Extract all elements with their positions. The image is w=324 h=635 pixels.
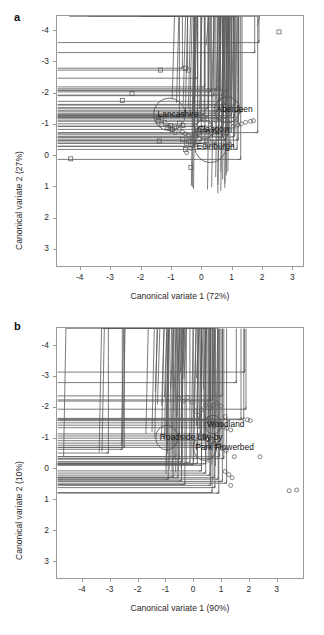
panel-y-tick-label: -2 (29, 87, 49, 97)
panel-x-tick-label: -1 (161, 272, 181, 282)
panel-x-tick-label: 2 (239, 584, 259, 594)
panel-b: b Canonical variate 2 (10%) Canonical va… (0, 312, 324, 635)
panel-x-tick (165, 578, 166, 582)
panel-y-tick-label: 3 (29, 243, 49, 253)
panel-y-tick (53, 249, 57, 250)
panel-y-tick-label: -2 (29, 401, 49, 411)
panel-y-tick (53, 499, 57, 500)
panel-b-scatter-area (57, 328, 303, 578)
panel-x-tick (138, 578, 139, 582)
panel-y-tick (53, 30, 57, 31)
panel-x-tick-label: -3 (100, 272, 120, 282)
panel-a-y-axis-title: Canonical variate 2 (27%) (14, 151, 24, 250)
panel-y-tick-label: -3 (29, 56, 49, 66)
panel-x-tick (171, 266, 172, 270)
panel-y-tick (53, 93, 57, 94)
panel-y-tick-label: 2 (29, 212, 49, 222)
panel-x-tick-label: 3 (282, 272, 302, 282)
group-label: Lancashire (158, 109, 199, 119)
panel-b-y-axis-title: Canonical variate 2 (10%) (14, 461, 24, 560)
panel-a-letter: a (14, 11, 20, 23)
panel-y-tick (53, 186, 57, 187)
panel-x-tick (193, 578, 194, 582)
panel-y-tick (53, 438, 57, 439)
panel-x-tick (80, 266, 81, 270)
panel-x-tick-label: 1 (211, 584, 231, 594)
group-label: Glasgow (197, 124, 230, 134)
panel-x-tick (292, 266, 293, 270)
panel-y-tick (53, 124, 57, 125)
panel-x-tick-label: 2 (252, 272, 272, 282)
panel-x-tick (141, 266, 142, 270)
panel-y-tick (53, 530, 57, 531)
panel-a: a Canonical variate 2 (27%) Canonical va… (0, 0, 324, 312)
panel-y-tick-label: 1 (29, 494, 49, 504)
panel-x-tick-label: 1 (222, 272, 242, 282)
panel-y-tick (53, 376, 57, 377)
panel-x-tick (110, 266, 111, 270)
panel-x-tick-label: 0 (183, 584, 203, 594)
panel-x-tick (232, 266, 233, 270)
panel-x-tick (110, 578, 111, 582)
group-label: Woodland (207, 419, 245, 429)
panel-b-letter: b (14, 320, 21, 332)
panel-x-tick-label: -2 (128, 584, 148, 594)
panel-y-tick (53, 61, 57, 62)
panel-y-tick (53, 561, 57, 562)
panel-y-tick-label: -4 (29, 340, 49, 350)
panel-y-tick (53, 407, 57, 408)
panel-y-tick-label: -1 (29, 432, 49, 442)
panel-x-tick-label: 3 (267, 584, 287, 594)
panel-y-tick-label: 0 (29, 150, 49, 160)
panel-y-tick-label: 0 (29, 463, 49, 473)
panel-y-tick-label: 2 (29, 525, 49, 535)
group-label: Roadside Lay-by (160, 432, 223, 442)
panel-x-tick-label: -4 (70, 272, 90, 282)
panel-x-tick-label: -4 (72, 584, 92, 594)
panel-y-tick-label: 1 (29, 181, 49, 191)
group-label: Edinburgh (197, 141, 235, 151)
panel-b-x-axis-title: Canonical variate 1 (90%) (56, 603, 304, 613)
panel-y-tick (53, 155, 57, 156)
panel-x-tick (249, 578, 250, 582)
panel-x-tick (262, 266, 263, 270)
panel-x-tick-label: -2 (131, 272, 151, 282)
panel-y-tick-label: -1 (29, 118, 49, 128)
panel-y-tick-label: -3 (29, 370, 49, 380)
panel-y-tick-label: 3 (29, 556, 49, 566)
panel-a-scatter-area (57, 16, 303, 266)
panel-y-tick (53, 218, 57, 219)
panel-x-tick (277, 578, 278, 582)
panel-x-tick (82, 578, 83, 582)
panel-x-tick-label: 0 (191, 272, 211, 282)
panel-y-tick (53, 468, 57, 469)
panel-y-tick-label: -4 (29, 25, 49, 35)
panel-x-tick-label: -3 (100, 584, 120, 594)
group-label: Park Flowerbed (195, 442, 254, 452)
panel-y-tick (53, 345, 57, 346)
group-label: Aberdeen (216, 104, 252, 114)
panel-x-tick (221, 578, 222, 582)
panel-x-tick (201, 266, 202, 270)
panel-a-x-axis-title: Canonical variate 1 (72%) (56, 291, 304, 301)
panel-x-tick-label: -1 (155, 584, 175, 594)
